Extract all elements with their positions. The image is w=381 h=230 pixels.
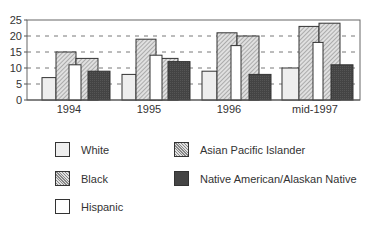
asian-swatch (174, 142, 189, 157)
legend-item-asian: Asian Pacific Islander (174, 142, 305, 157)
legend-item-white: White (55, 142, 109, 157)
white-swatch (55, 142, 70, 157)
black-swatch (55, 171, 70, 186)
legend-label: Native American/Alaskan Native (200, 173, 357, 185)
legend: White Black Hispanic Asian Pacific Islan… (0, 0, 381, 230)
legend-label: Asian Pacific Islander (200, 144, 305, 156)
legend-label: Black (81, 173, 108, 185)
legend-item-hispanic: Hispanic (55, 199, 123, 214)
legend-label: White (81, 144, 109, 156)
legend-item-native: Native American/Alaskan Native (174, 171, 357, 186)
legend-item-black: Black (55, 171, 108, 186)
native-swatch (174, 171, 189, 186)
hispanic-swatch (55, 199, 70, 214)
legend-label: Hispanic (81, 201, 123, 213)
